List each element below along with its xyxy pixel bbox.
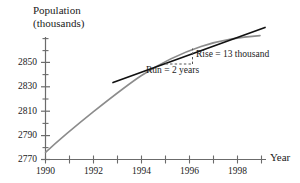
population-growth-chart: Population (thousands) Year 2850 2830 28…: [0, 0, 300, 183]
y-tick-label-2830: 2830: [7, 82, 37, 92]
x-tick-label-1996: 1996: [173, 167, 207, 177]
rise-annotation-label: Rise = 13 thousand: [196, 50, 269, 60]
y-axis-title-line2: (thousands): [33, 17, 84, 30]
x-tick-label-1992: 1992: [77, 167, 111, 177]
x-tick-label-1990: 1990: [29, 167, 63, 177]
y-tick-label-2850: 2850: [7, 58, 37, 68]
y-axis-title-line1: Population: [33, 4, 84, 17]
x-tick-label-1998: 1998: [221, 167, 255, 177]
y-tick-label-2810: 2810: [7, 107, 37, 117]
x-axis-title: Year: [270, 152, 290, 163]
y-tick-label-2790: 2790: [7, 131, 37, 141]
y-axis-title: Population (thousands): [33, 4, 84, 30]
run-annotation-label: Run = 2 years: [146, 66, 199, 76]
x-tick-label-1994: 1994: [125, 167, 159, 177]
y-tick-label-2770: 2770: [7, 155, 37, 165]
